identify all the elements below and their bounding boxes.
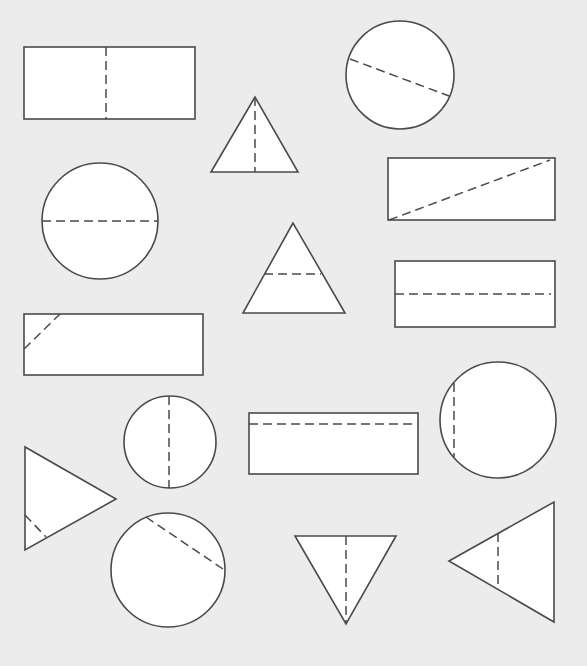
triangle-5 bbox=[449, 502, 554, 622]
rect-4 bbox=[24, 314, 203, 375]
triangle-4-shape bbox=[295, 536, 396, 624]
triangle-1-shape bbox=[211, 97, 298, 172]
rect-2-shape bbox=[388, 158, 555, 220]
circle-1-shape bbox=[346, 21, 454, 129]
rect-1 bbox=[24, 47, 195, 119]
shapes-diagram bbox=[0, 0, 587, 666]
circle-1 bbox=[346, 21, 454, 129]
rect-4-shape bbox=[24, 314, 203, 375]
rect-5-shape bbox=[249, 413, 418, 474]
triangle-2-shape bbox=[243, 223, 345, 313]
triangle-5-shape bbox=[449, 502, 554, 622]
circle-5 bbox=[111, 513, 225, 627]
circle-5-shape bbox=[111, 513, 225, 627]
circle-3 bbox=[440, 362, 556, 478]
circle-2-shape bbox=[42, 163, 158, 279]
rect-1-shape bbox=[24, 47, 195, 119]
triangle-2 bbox=[243, 223, 345, 313]
circle-3-shape bbox=[440, 362, 556, 478]
circle-4 bbox=[124, 396, 216, 488]
rect-5 bbox=[249, 413, 418, 474]
triangle-3 bbox=[25, 447, 116, 550]
triangle-3-shape bbox=[25, 447, 116, 550]
rect-3 bbox=[395, 261, 555, 327]
circle-4-shape bbox=[124, 396, 216, 488]
rect-3-shape bbox=[395, 261, 555, 327]
